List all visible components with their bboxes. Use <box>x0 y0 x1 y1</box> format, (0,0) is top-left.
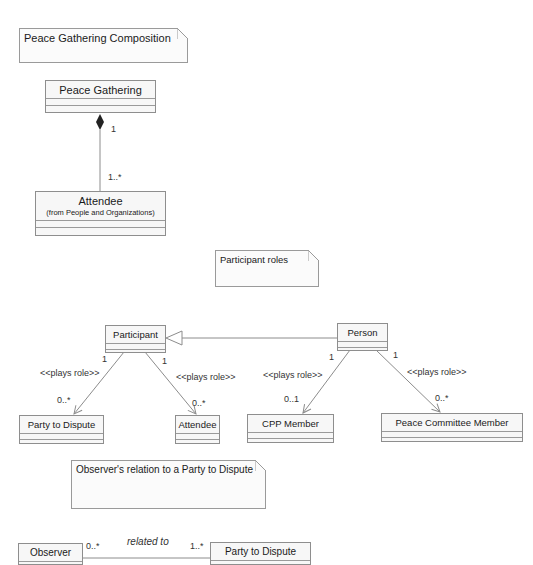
participant-attendee-target-mult: 0..* <box>192 398 206 408</box>
note-fold-icon <box>255 460 266 471</box>
person-cpp-stereotype: <<plays role>> <box>263 370 323 380</box>
observer-party-target-mult: 1..* <box>190 541 204 551</box>
participant-attendee-source-mult: 1 <box>162 356 167 366</box>
class-person[interactable]: Person <box>337 323 388 351</box>
class-cpp-member[interactable]: CPP Member <box>247 414 334 443</box>
note-participant-roles: Participant roles <box>215 250 319 287</box>
note-text: Observer's relation to a Party to Disput… <box>76 464 253 475</box>
participant-party-source-mult: 1 <box>102 354 107 364</box>
person-cpp-source-mult: 1 <box>329 352 334 362</box>
participant-attendee-link <box>145 352 196 414</box>
participant-party-target-mult: 0..* <box>57 395 71 405</box>
class-name: Party to Dispute <box>211 543 310 561</box>
class-peace-committee-member[interactable]: Peace Committee Member <box>381 413 523 442</box>
composition-target-multiplicity: 1..* <box>108 172 122 182</box>
participant-party-stereotype: <<plays role>> <box>40 368 100 378</box>
composition-diamond-icon <box>96 114 104 130</box>
operations-compartment <box>382 438 522 441</box>
operations-compartment <box>46 106 155 112</box>
class-name: CPP Member <box>248 415 333 433</box>
observer-party-association-name: related to <box>127 536 169 547</box>
class-name: Person <box>338 324 387 342</box>
class-name: Party to Dispute <box>20 416 103 434</box>
class-name: Observer <box>19 544 82 562</box>
operations-compartment <box>106 350 165 352</box>
class-package: (from People and Organizations) <box>38 208 163 218</box>
person-pcm-source-mult: 1 <box>393 350 398 360</box>
class-attendee-role[interactable]: Attendee <box>175 415 220 444</box>
class-name: Participant <box>106 326 165 344</box>
observer-party-source-mult: 0..* <box>86 541 100 551</box>
participant-attendee-stereotype: <<plays role>> <box>176 372 236 382</box>
note-composition: Peace Gathering Composition <box>19 28 188 63</box>
note-text: Peace Gathering Composition <box>24 32 171 44</box>
class-observer[interactable]: Observer <box>18 543 83 565</box>
class-name: Attendee <box>176 416 219 434</box>
class-name-block: Attendee (from People and Organizations) <box>36 192 165 221</box>
class-name: Peace Committee Member <box>382 414 522 432</box>
composition-source-multiplicity: 1 <box>111 124 116 134</box>
operations-compartment <box>248 439 333 442</box>
person-cpp-target-mult: 0..1 <box>284 394 299 404</box>
note-observer-relation: Observer's relation to a Party to Disput… <box>71 460 266 509</box>
generalization-triangle-icon <box>166 331 182 345</box>
class-attendee-top[interactable]: Attendee (from People and Organizations) <box>35 191 166 236</box>
class-party-to-dispute-2[interactable]: Party to Dispute <box>210 542 311 565</box>
class-participant[interactable]: Participant <box>105 325 166 353</box>
attributes-compartment <box>36 221 165 228</box>
person-pcm-stereotype: <<plays role>> <box>407 367 467 377</box>
note-fold-icon <box>177 28 188 39</box>
class-peace-gathering[interactable]: Peace Gathering <box>45 80 156 113</box>
person-cpp-link <box>303 350 350 413</box>
operations-compartment <box>176 440 219 443</box>
note-fold-icon <box>308 250 319 261</box>
class-name: Peace Gathering <box>46 81 155 99</box>
generalization-link <box>166 331 337 345</box>
composition-link <box>96 114 104 191</box>
operations-compartment <box>36 228 165 235</box>
class-party-to-dispute[interactable]: Party to Dispute <box>19 415 104 444</box>
participant-party-link <box>74 352 124 414</box>
operations-compartment <box>338 348 387 350</box>
class-name: Attendee <box>78 195 122 207</box>
operations-compartment <box>20 440 103 443</box>
person-pcm-target-mult: 0..* <box>435 393 449 403</box>
person-pcm-link <box>376 350 440 412</box>
note-text: Participant roles <box>220 254 288 265</box>
attributes-compartment <box>46 99 155 106</box>
